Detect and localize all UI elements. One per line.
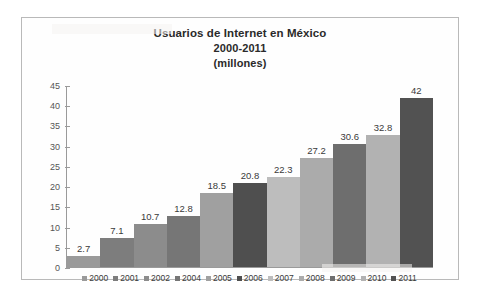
bar-2008[interactable]: 27.2 [300,158,333,267]
y-axis-tick-label: 30 [50,142,60,152]
chart-title: Usuarios de Internet en México 2000-2011… [22,26,458,71]
bar-value-label: 18.5 [207,180,226,191]
legend-item-label: 2000 [89,273,108,283]
legend-item-label: 2010 [368,273,387,283]
bar-2009[interactable]: 30.6 [333,144,366,267]
chart-title-line-2: 2000-2011 [22,41,458,56]
legend-swatch-icon [268,276,273,281]
chart-title-line-1: Usuarios de Internet en México [22,26,458,41]
bar-cell[interactable]: 42 [400,86,433,267]
bar-2004[interactable]: 12.8 [167,216,200,267]
bar-2006[interactable]: 20.8 [233,183,266,267]
bar-cell[interactable]: 27.2 [300,86,333,267]
legend-item-label: 2008 [306,273,325,283]
bar-2005[interactable]: 18.5 [200,193,233,267]
chart-frame: Usuarios de Internet en México 2000-2011… [21,17,459,280]
bar-value-label: 10.7 [141,211,160,222]
bar-value-label: 32.8 [374,122,393,133]
x-axis-line [66,267,433,268]
legend-swatch-icon [113,276,118,281]
bar-value-label: 42 [411,85,422,96]
bar-cell[interactable]: 32.8 [366,86,399,267]
legend-item-label: 2009 [337,273,356,283]
y-axis-tick-label: 40 [50,101,60,111]
legend-item-2008[interactable]: 2008 [299,273,325,283]
legend-swatch-icon [144,276,149,281]
plot-area: 454035302520151050 2.77.110.712.818.520.… [66,86,433,268]
bar-value-label: 7.1 [110,225,123,236]
bar-value-label: 27.2 [307,145,326,156]
chart-title-line-3: (millones) [22,56,458,71]
legend-swatch-icon [391,276,396,281]
bar-2007[interactable]: 22.3 [267,177,300,267]
legend-item-2002[interactable]: 2002 [144,273,170,283]
y-axis-tick-label: 35 [50,121,60,131]
legend-item-2001[interactable]: 2001 [113,273,139,283]
y-axis-tick-label: 45 [50,81,60,91]
y-axis-tick-label: 10 [50,223,60,233]
bar-cell[interactable]: 20.8 [233,86,266,267]
bar-cell[interactable]: 7.1 [100,86,133,267]
legend-item-label: 2004 [182,273,201,283]
bar-cell[interactable]: 30.6 [333,86,366,267]
legend-swatch-icon [361,276,366,281]
bar-value-label: 12.8 [174,203,193,214]
legend-swatch-icon [330,276,335,281]
legend-item-label: 2007 [275,273,294,283]
legend-swatch-icon [237,276,242,281]
bar-2001[interactable]: 7.1 [100,238,133,267]
legend-item-2010[interactable]: 2010 [361,273,387,283]
legend-item-2000[interactable]: 2000 [82,273,108,283]
y-axis-tick [65,268,70,269]
bar-value-label: 22.3 [274,164,293,175]
legend-item-2006[interactable]: 2006 [237,273,263,283]
legend-item-2005[interactable]: 2005 [206,273,232,283]
bar-cell[interactable]: 2.7 [67,86,100,267]
bar-value-label: 20.8 [241,170,260,181]
bar-2011[interactable]: 42 [400,98,433,267]
bar-2000[interactable]: 2.7 [67,256,100,267]
bar-series: 2.77.110.712.818.520.822.327.230.632.842 [67,86,433,267]
legend-swatch-icon [175,276,180,281]
legend-item-label: 2011 [398,273,416,283]
legend-swatch-icon [299,276,304,281]
legend-swatch-icon [82,276,87,281]
legend-item-2009[interactable]: 2009 [330,273,356,283]
bar-cell[interactable]: 18.5 [200,86,233,267]
bar-value-label: 30.6 [341,131,360,142]
legend-item-label: 2006 [244,273,263,283]
bar-cell[interactable]: 12.8 [167,86,200,267]
y-axis-tick-label: 25 [50,162,60,172]
legend-item-label: 2001 [120,273,139,283]
y-axis-tick-label: 5 [55,243,60,253]
legend-item-label: 2002 [151,273,170,283]
bar-2002[interactable]: 10.7 [134,224,167,267]
bar-2010[interactable]: 32.8 [366,135,399,267]
legend-item-2004[interactable]: 2004 [175,273,201,283]
bar-cell[interactable]: 22.3 [267,86,300,267]
legend-item-2007[interactable]: 2007 [268,273,294,283]
y-axis-tick-label: 20 [50,182,60,192]
legend-swatch-icon [206,276,211,281]
bar-cell[interactable]: 10.7 [134,86,167,267]
y-axis-tick-label: 15 [50,202,60,212]
legend-item-2011[interactable]: 2011 [391,273,416,283]
legend-item-label: 2005 [213,273,232,283]
y-axis-tick-label: 0 [55,263,60,273]
bar-value-label: 2.7 [77,243,90,254]
chart-legend: 2000200120022004200520062007200820092010… [66,273,433,283]
